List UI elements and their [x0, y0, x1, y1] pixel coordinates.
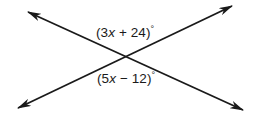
lines-canvas — [0, 0, 262, 122]
degree-symbol-icon: ° — [151, 24, 155, 34]
degree-symbol-icon: ° — [152, 70, 156, 80]
intersecting-lines-angle-diagram: (3x + 24)° (5x − 12)° — [0, 0, 262, 122]
angle-label-bottom: (5x − 12)° — [97, 72, 155, 86]
angle-label-top: (3x + 24)° — [96, 26, 154, 40]
angle-label-top-prefix: (3 — [96, 25, 108, 40]
angle-label-top-suffix: + 24) — [115, 25, 151, 40]
angle-label-bottom-prefix: (5 — [97, 71, 109, 86]
angle-label-bottom-suffix: − 12) — [116, 71, 152, 86]
